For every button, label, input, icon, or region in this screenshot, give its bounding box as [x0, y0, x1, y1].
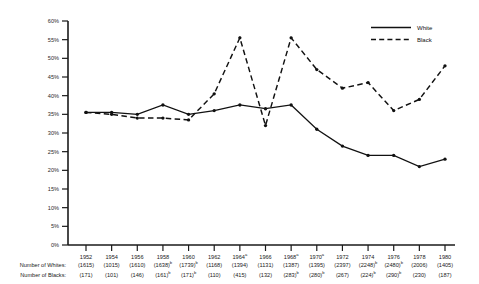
series-line-black — [86, 38, 445, 126]
count-blacks: (171) — [79, 272, 92, 278]
x-tick-label: 1958 — [157, 254, 169, 260]
count-whites: (2006) — [411, 262, 427, 268]
data-point — [136, 116, 139, 119]
data-point — [213, 92, 216, 95]
count-whites: (1739)b — [179, 260, 198, 267]
sample-size-rows: (1615)(1015)(1610)(1638)b(1739)b(1168)(1… — [78, 260, 453, 277]
line-chart: 0%5%10%15%20%25%30%35%40%45%50%55%60% 19… — [0, 0, 479, 284]
x-tick-label: 1978 — [413, 254, 425, 260]
count-blacks: (161)b — [155, 270, 171, 277]
count-blacks: (290)b — [386, 270, 402, 277]
data-point — [84, 111, 87, 114]
count-blacks: (132) — [259, 272, 272, 278]
count-whites: (2480)b — [384, 260, 403, 267]
count-whites: (1610) — [129, 262, 145, 268]
data-point — [161, 116, 164, 119]
data-point — [341, 87, 344, 90]
data-point — [213, 109, 216, 112]
data-point — [392, 109, 395, 112]
data-point — [289, 103, 292, 106]
data-point — [110, 113, 113, 116]
x-tick-label: 1974 — [362, 254, 374, 260]
data-point — [418, 165, 421, 168]
data-point — [264, 124, 267, 127]
count-whites: (1015) — [104, 262, 120, 268]
count-whites: (1394) — [232, 262, 248, 268]
count-whites: (1405) — [437, 262, 453, 268]
data-point — [315, 128, 318, 131]
count-blacks: (283)b — [283, 270, 299, 277]
y-tick-label: 5% — [51, 223, 59, 229]
count-whites: (2248)b — [359, 260, 378, 267]
data-point — [136, 113, 139, 116]
y-tick-label: 0% — [51, 242, 59, 248]
count-whites: (1638)b — [154, 260, 173, 267]
data-point — [238, 103, 241, 106]
y-tick-label: 35% — [48, 111, 59, 117]
chart-container: 0%5%10%15%20%25%30%35%40%45%50%55%60% 19… — [0, 0, 479, 284]
data-point — [366, 154, 369, 157]
legend-label-black: Black — [417, 37, 433, 43]
x-tick-label: 1980 — [439, 254, 451, 260]
data-point — [366, 81, 369, 84]
series-layer — [84, 36, 446, 168]
x-tick-label: 1960 — [182, 254, 194, 260]
y-tick-label: 10% — [48, 205, 59, 211]
x-tick-label: 1970a — [309, 252, 324, 259]
data-point — [187, 118, 190, 121]
legend-label-white: White — [417, 25, 433, 31]
count-whites: (1387) — [283, 262, 299, 268]
count-whites: (1168) — [206, 262, 222, 268]
data-point — [392, 154, 395, 157]
count-blacks: (171)b — [181, 270, 197, 277]
count-whites: (1395) — [309, 262, 325, 268]
data-point — [187, 113, 190, 116]
count-blacks: (110) — [208, 272, 221, 278]
count-blacks: (146) — [131, 272, 144, 278]
x-tick-label: 1964a — [232, 252, 247, 259]
data-point — [161, 103, 164, 106]
y-tick-label: 60% — [48, 18, 59, 24]
x-tick-label: 1956 — [131, 254, 143, 260]
x-tick-label: 1972 — [336, 254, 348, 260]
y-tick-label: 50% — [48, 55, 59, 61]
y-tick-label: 20% — [48, 167, 59, 173]
count-blacks: (230) — [413, 272, 426, 278]
count-blacks: (187) — [438, 272, 451, 278]
y-tick-label: 45% — [48, 74, 59, 80]
series-line-white — [86, 105, 445, 167]
count-blacks: (224)b — [360, 270, 376, 277]
count-blacks: (101) — [105, 272, 118, 278]
y-tick-label: 30% — [48, 130, 59, 136]
x-tick-label: 1968a — [284, 252, 299, 259]
chart-legend: White Black — [371, 25, 433, 43]
data-point — [443, 64, 446, 67]
x-axis-labels: 1952195419561958196019621964a19661968a19… — [80, 252, 451, 259]
x-tick-label: 1976 — [387, 254, 399, 260]
y-tick-label: 25% — [48, 149, 59, 155]
data-point — [443, 157, 446, 160]
y-axis-ticks: 0%5%10%15%20%25%30%35%40%45%50%55%60% — [48, 18, 68, 248]
count-whites: (2397) — [334, 262, 350, 268]
data-point — [289, 36, 292, 39]
x-axis-ticks — [86, 245, 445, 251]
count-whites: (1131) — [258, 262, 274, 268]
y-tick-label: 40% — [48, 93, 59, 99]
count-whites: (1615) — [78, 262, 94, 268]
row-label-blacks: Number of Blacks: — [20, 272, 66, 278]
x-tick-label: 1954 — [105, 254, 117, 260]
data-point — [315, 68, 318, 71]
data-point — [418, 98, 421, 101]
x-tick-label: 1952 — [80, 254, 92, 260]
count-blacks: (415) — [233, 272, 246, 278]
x-tick-label: 1962 — [208, 254, 220, 260]
data-point — [238, 36, 241, 39]
data-point — [264, 107, 267, 110]
data-point — [341, 144, 344, 147]
row-label-whites: Number of Whites: — [20, 262, 67, 268]
x-tick-label: 1966 — [259, 254, 271, 260]
count-blacks: (280)b — [309, 270, 325, 277]
count-blacks: (267) — [336, 272, 349, 278]
y-tick-label: 55% — [48, 37, 59, 43]
y-tick-label: 15% — [48, 186, 59, 192]
